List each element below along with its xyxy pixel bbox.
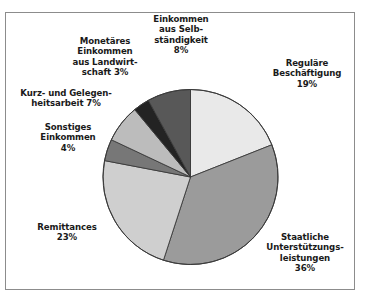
slice-label-staatliche-unterstuetzungsleistungen: Staatliche Unterstützungs- leistungen 36…	[252, 232, 358, 274]
slice-label-regulaere-beschaeftigung: Reguläre Beschäftigung 19%	[254, 58, 360, 89]
pie-chart-figure: Einkommen aus Selb- ständigkeit 8% Monet…	[0, 0, 367, 307]
slice-label-sonstiges-einkommen: Sonstiges Einkommen 4%	[16, 122, 120, 153]
slice-label-kurz-und-gelegenheitsarbeit: Kurz- und Gelegen- heitsarbeit 7%	[8, 88, 124, 109]
slice-label-monetaeres-einkommen-aus-landwirtschaft: Monetäres Einkommen aus Landwirt- schaft…	[53, 36, 157, 78]
slice-label-remittances: Remittances 23%	[12, 222, 122, 243]
